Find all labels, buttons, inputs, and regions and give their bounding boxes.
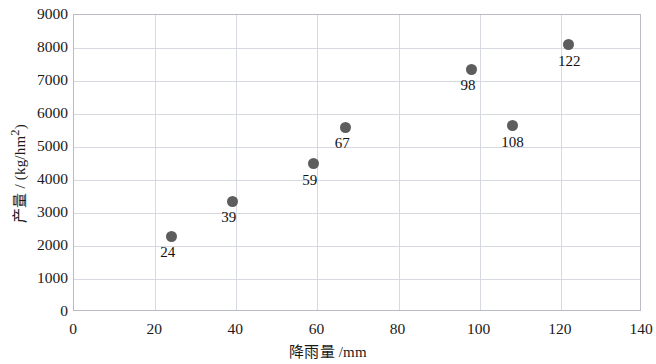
x-axis-tick-label: 40 [205, 321, 265, 337]
x-axis-tick-label: 120 [530, 321, 590, 337]
x-axis-tick-label: 60 [286, 321, 346, 337]
x-axis-title: 降雨量 /mm [0, 340, 656, 361]
scatter-chart: 2439596798108122 01000200030004000500060… [0, 0, 656, 364]
x-axis-tick-label: 140 [611, 321, 656, 337]
x-axis-tick-labels: 020406080100120140 [0, 0, 656, 364]
y-axis-title: 产量 / (kg/hm2) [8, 64, 29, 284]
x-axis-tick-label: 100 [449, 321, 509, 337]
x-axis-tick-label: 20 [124, 321, 184, 337]
x-axis-tick-label: 0 [43, 321, 103, 337]
y-axis-title-exponent: 2 [8, 129, 22, 135]
x-axis-tick-label: 80 [368, 321, 428, 337]
